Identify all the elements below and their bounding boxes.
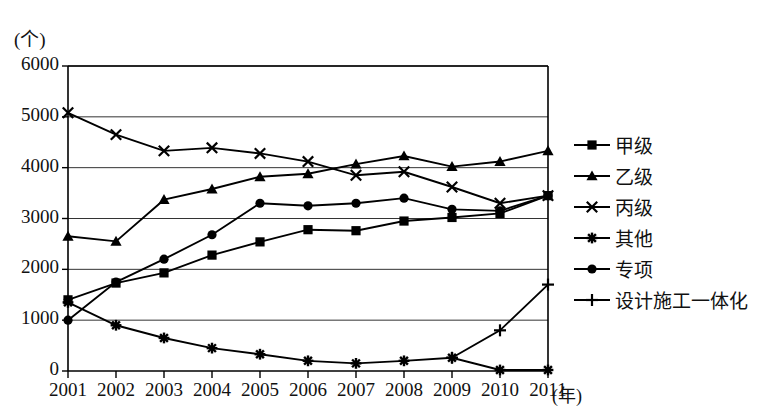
data-point-square [351, 226, 360, 235]
data-point-asterisk [399, 355, 410, 366]
data-point-circle [63, 316, 72, 325]
data-point-triangle [398, 150, 409, 160]
data-point-asterisk [207, 343, 218, 354]
data-point-circle [543, 191, 552, 200]
data-point-circle [447, 205, 456, 214]
series-5 [446, 279, 554, 364]
y-tick-label: 3000 [0, 206, 59, 228]
data-point-square [303, 225, 312, 234]
x-tick-label: 2002 [90, 379, 142, 401]
x-tick-label: 2010 [474, 379, 526, 401]
triangle-icon [572, 166, 612, 186]
data-point-circle [351, 199, 360, 208]
data-point-square [399, 216, 408, 225]
y-tick-label: 0 [0, 358, 59, 380]
series-line [68, 196, 548, 300]
data-point-x [447, 182, 457, 192]
data-point-asterisk [495, 365, 506, 376]
data-point-circle [495, 206, 504, 215]
data-point-triangle [62, 231, 73, 241]
x-tick-label: 2004 [186, 379, 238, 401]
series-4 [63, 191, 552, 325]
data-point-asterisk [63, 297, 74, 308]
legend-item-square: 甲级 [572, 129, 762, 160]
series-line [68, 113, 548, 203]
legend-item-asterisk: 其他 [572, 222, 762, 253]
series-line [452, 285, 548, 358]
legend-label: 专项 [615, 255, 653, 282]
legend-item-circle: 专项 [572, 253, 762, 284]
data-point-x [111, 129, 121, 139]
data-point-square [587, 140, 596, 149]
legend-label: 甲级 [615, 131, 653, 158]
data-series [62, 108, 554, 376]
plus-icon [572, 290, 612, 310]
data-point-square [159, 268, 168, 277]
data-point-plus [586, 294, 598, 306]
y-tick-label: 4000 [0, 155, 59, 177]
data-point-circle [303, 201, 312, 210]
data-point-square [207, 251, 216, 260]
data-point-asterisk [351, 358, 362, 369]
data-point-circle [399, 194, 408, 203]
series-line [68, 196, 548, 321]
data-point-square [255, 237, 264, 246]
x-axis-unit-label: (年) [552, 381, 582, 407]
data-point-asterisk [543, 365, 554, 376]
data-point-asterisk [111, 320, 122, 331]
chart-svg [0, 0, 600, 419]
legend-item-triangle: 乙级 [572, 160, 762, 191]
data-point-square [447, 213, 456, 222]
legend-label: 丙级 [615, 193, 653, 220]
square-icon [572, 135, 612, 155]
y-tick-label: 5000 [0, 104, 59, 126]
data-point-circle [207, 230, 216, 239]
x-tick-label: 2009 [426, 379, 478, 401]
y-tick-label: 6000 [0, 53, 59, 75]
x-tick-label: 2003 [138, 379, 190, 401]
data-point-circle [159, 255, 168, 264]
x-tick-label: 2007 [330, 379, 382, 401]
chart-legend: 甲级乙级丙级其他专项设计施工一体化 [572, 129, 762, 315]
data-point-asterisk [255, 349, 266, 360]
data-point-circle [255, 199, 264, 208]
data-point-asterisk [303, 355, 314, 366]
asterisk-icon [572, 228, 612, 248]
series-3 [63, 297, 554, 375]
x-tick-label: 2001 [42, 379, 94, 401]
x-tick-label: 2005 [234, 379, 286, 401]
data-point-asterisk [159, 333, 170, 344]
data-point-asterisk [587, 232, 598, 243]
legend-item-x: 丙级 [572, 191, 762, 222]
x-icon [572, 197, 612, 217]
y-tick-label: 2000 [0, 256, 59, 278]
data-point-circle [587, 264, 596, 273]
x-tick-label: 2006 [282, 379, 334, 401]
y-tick-label: 1000 [0, 307, 59, 329]
plot-area: 0100020003000400050006000 20012002200320… [0, 0, 600, 419]
x-tick-label: 2008 [378, 379, 430, 401]
gridlines [68, 66, 548, 320]
legend-label: 设计施工一体化 [615, 286, 748, 313]
legend-label: 乙级 [615, 162, 653, 189]
legend-item-plus: 设计施工一体化 [572, 284, 762, 315]
series-2 [63, 108, 553, 209]
circle-icon [572, 259, 612, 279]
data-point-circle [111, 277, 120, 286]
legend-label: 其他 [615, 224, 653, 251]
data-point-plus [446, 352, 458, 364]
data-point-triangle [542, 145, 553, 155]
chart-root: (个) 0100020003000400050006000 2001200220… [0, 0, 764, 419]
